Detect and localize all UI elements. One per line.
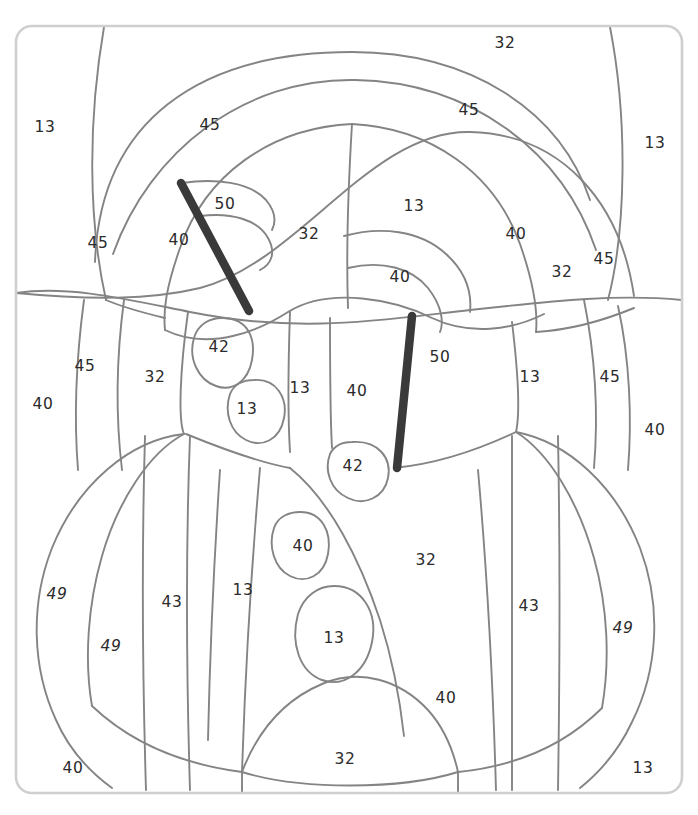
belly-inner-curve bbox=[290, 468, 404, 736]
belly-band-left bbox=[186, 434, 290, 468]
region-label-32-l38: 32 bbox=[335, 750, 356, 768]
torso-mid-left bbox=[181, 312, 188, 434]
belly-right-inner bbox=[516, 432, 607, 708]
spine-lower-right bbox=[330, 318, 332, 448]
region-label-43-l32: 43 bbox=[519, 597, 540, 615]
bottom-center-band bbox=[242, 772, 458, 786]
bar-lower-right bbox=[397, 316, 412, 468]
leg-left-2 bbox=[187, 436, 190, 790]
leg-right-3 bbox=[558, 436, 560, 790]
torso-right-edge2 bbox=[618, 306, 630, 470]
bottom-round-left bbox=[92, 706, 242, 772]
belly-left-arc bbox=[37, 434, 184, 788]
ellipse-wide-top bbox=[16, 132, 634, 298]
belly-band-right bbox=[394, 432, 516, 468]
region-label-49-l34: 49 bbox=[101, 637, 122, 655]
region-label-45-l22: 45 bbox=[600, 368, 621, 386]
region-label-13-l31: 13 bbox=[233, 581, 254, 599]
region-label-32-l17: 32 bbox=[145, 368, 166, 386]
region-label-40-l23: 40 bbox=[33, 395, 54, 413]
region-label-42-l26: 42 bbox=[343, 457, 364, 475]
region-label-50-l06: 50 bbox=[215, 195, 236, 213]
region-label-42-l15: 42 bbox=[209, 338, 230, 356]
region-label-13-l03: 13 bbox=[35, 118, 56, 136]
region-label-45-l02: 45 bbox=[459, 101, 480, 119]
region-label-13-l39: 13 bbox=[633, 759, 654, 777]
region-label-40-l25: 40 bbox=[645, 421, 666, 439]
region-label-13-l24: 13 bbox=[237, 400, 258, 418]
region-label-13-l18: 13 bbox=[290, 379, 311, 397]
ellipse-wide-bottom bbox=[16, 291, 682, 324]
region-label-40-l19: 40 bbox=[347, 382, 368, 400]
leg-left-4 bbox=[242, 468, 260, 772]
leg-right-1 bbox=[478, 470, 496, 790]
shoulder-left bbox=[106, 300, 165, 318]
region-label-32-l01: 32 bbox=[495, 34, 516, 52]
center-spine-upper bbox=[347, 124, 352, 308]
region-label-49-l29: 49 bbox=[47, 585, 68, 603]
line-art-svg bbox=[0, 0, 698, 815]
leg-left-1 bbox=[143, 436, 146, 790]
region-label-32-l09: 32 bbox=[299, 225, 320, 243]
region-label-40-l36: 40 bbox=[436, 689, 457, 707]
region-label-49-l33: 49 bbox=[613, 619, 634, 637]
torso-right-edge bbox=[584, 300, 596, 468]
diagram-canvas: 3245134513501340324045403245424532134050… bbox=[0, 0, 698, 815]
region-label-32-l13: 32 bbox=[552, 263, 573, 281]
region-label-50-l20: 50 bbox=[430, 348, 451, 366]
region-label-40-l08: 40 bbox=[506, 225, 527, 243]
region-label-45-l14: 45 bbox=[594, 250, 615, 268]
region-label-40-l10: 40 bbox=[169, 231, 190, 249]
region-label-13-l07: 13 bbox=[404, 197, 425, 215]
torso-left-edge bbox=[76, 300, 84, 470]
region-label-45-l11: 45 bbox=[88, 234, 109, 252]
region-label-45-l16: 45 bbox=[75, 357, 96, 375]
region-label-32-l28: 32 bbox=[416, 551, 437, 569]
region-label-13-l35: 13 bbox=[324, 629, 345, 647]
region-label-13-l21: 13 bbox=[520, 368, 541, 386]
torso-mid-right bbox=[512, 322, 518, 432]
bottom-round-right bbox=[458, 708, 602, 772]
region-label-43-l30: 43 bbox=[162, 593, 183, 611]
thick-bar-markers bbox=[181, 183, 412, 468]
region-label-40-l27: 40 bbox=[293, 537, 314, 555]
region-label-40-l37: 40 bbox=[63, 759, 84, 777]
torso-left-edge2 bbox=[118, 300, 124, 470]
region-boundary-paths bbox=[16, 27, 682, 793]
leg-left-3 bbox=[208, 470, 220, 740]
region-label-45-l04: 45 bbox=[200, 116, 221, 134]
region-label-13-l05: 13 bbox=[645, 134, 666, 152]
region-label-40-l12: 40 bbox=[390, 268, 411, 286]
